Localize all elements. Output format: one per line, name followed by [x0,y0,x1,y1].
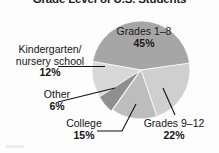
pie-label-grades-9-12-value: 22% [136,130,212,142]
pie-label-kindergarten-name-line1: Kindergarten/ [2,44,98,56]
pie-label-college-name: College [56,118,112,130]
pie-chart-figure: Grade Level of U.S. Students Grades 1–8 … [0,0,219,153]
pie-label-grades-1-8-value: 45% [107,38,181,50]
pie-label-college: College 15% [56,118,112,141]
pie-label-grades-9-12: Grades 9–12 22% [136,118,212,141]
pie-label-other: Other 6% [32,89,82,112]
pie-label-other-name: Other [32,89,82,101]
pie-label-other-value: 6% [32,101,82,113]
pie-label-grades-9-12-name: Grades 9–12 [136,118,212,130]
pie-label-college-value: 15% [56,130,112,142]
pie-label-grades-1-8: Grades 1–8 45% [107,26,181,49]
pie-label-grades-1-8-name: Grades 1–8 [107,26,181,38]
scan-artifact [6,145,24,148]
pie-label-kindergarten: Kindergarten/ nursery school 12% [2,44,98,79]
pie-label-kindergarten-value: 12% [2,67,98,79]
